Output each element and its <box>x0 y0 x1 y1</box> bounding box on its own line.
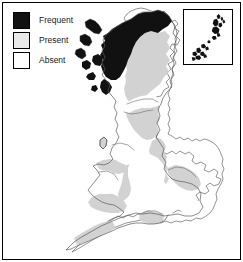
inset-orkney-islands <box>192 44 209 61</box>
inset-fair-isle <box>207 40 210 43</box>
legend-swatch-absent <box>13 52 30 69</box>
region-cornwall-devon <box>74 221 115 245</box>
distribution-map-figure: Frequent Present Absent <box>0 0 243 262</box>
region-argyll-peninsula <box>100 79 112 95</box>
legend-label-frequent: Frequent <box>39 15 73 25</box>
legend-item-present: Present <box>13 30 105 50</box>
legend-swatch-frequent <box>13 12 30 29</box>
region-central-wales <box>95 170 118 194</box>
inset-islands-map <box>184 10 232 64</box>
region-midlands-southeast-england <box>128 154 178 214</box>
inset-shetland-islands <box>212 14 225 40</box>
shetland-orkney-inset <box>183 9 233 65</box>
map-legend: Frequent Present Absent <box>13 10 105 70</box>
legend-label-absent: Absent <box>39 55 65 65</box>
legend-label-present: Present <box>39 35 68 45</box>
legend-item-frequent: Frequent <box>13 10 105 30</box>
legend-item-absent: Absent <box>13 50 105 70</box>
legend-swatch-present <box>13 32 30 49</box>
